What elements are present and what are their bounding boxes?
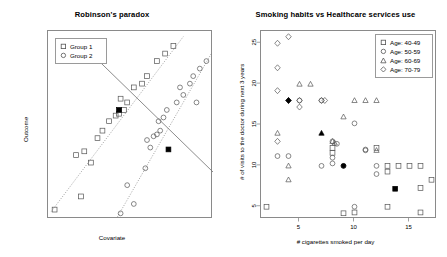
data-point — [125, 100, 130, 105]
data-point — [113, 113, 118, 118]
data-point — [178, 85, 183, 90]
data-point — [171, 44, 176, 49]
data-point — [125, 183, 130, 188]
data-point — [188, 81, 193, 86]
panel-smoking-healthcare: Smoking habits vs Healthcare services us… — [224, 0, 447, 257]
data-point — [148, 145, 153, 150]
data-point — [197, 66, 202, 71]
legend-label-age-40-49: Age: 40-49 — [390, 39, 420, 46]
data-point — [145, 138, 150, 143]
data-point — [158, 128, 163, 133]
legend-label-group-1: Group 1 — [70, 43, 92, 50]
legend-groups: Group 1 Group 2 — [55, 38, 107, 64]
data-point — [52, 207, 57, 212]
data-point — [74, 153, 79, 158]
data-point — [143, 166, 148, 171]
data-point — [79, 194, 84, 199]
y-tick-label: 15 — [251, 120, 257, 127]
data-point — [145, 74, 150, 79]
page-title: Robinson's paradox — [0, 10, 224, 19]
y-tick-label: 25 — [251, 38, 257, 45]
y-axis-label-right: # of visits to the doctor during next 3 … — [238, 64, 245, 180]
legend-label-group-2: Group 2 — [70, 52, 92, 59]
figure-canvas: Robinson's paradox Group 1 Group 2 Covar… — [0, 0, 447, 257]
highlighted-data-point — [117, 108, 122, 113]
legend-label-age-50-59: Age: 50-59 — [390, 48, 420, 55]
data-point — [95, 136, 100, 141]
legend-item-group-1[interactable]: Group 1 — [60, 42, 102, 51]
data-point — [118, 96, 123, 101]
diamond-marker-icon — [380, 66, 387, 73]
triangle-marker-icon — [380, 57, 387, 64]
legend-label-age-70-79: Age: 70-79 — [390, 66, 420, 73]
circle-marker-icon — [60, 52, 67, 59]
trend-line — [117, 54, 211, 218]
data-point — [191, 74, 196, 79]
legend-item-age-40-49[interactable]: Age: 40-49 — [380, 38, 428, 47]
x-tick-label: 15 — [405, 224, 412, 230]
y-axis-label-left: Outcome — [22, 117, 29, 142]
panel-robinsons-paradox: Robinson's paradox Group 1 Group 2 Covar… — [0, 0, 224, 257]
data-point — [107, 119, 112, 124]
square-marker-icon — [60, 43, 67, 50]
x-tick-label: 10 — [350, 224, 357, 230]
data-point — [174, 100, 179, 105]
legend-item-age-70-79[interactable]: Age: 70-79 — [380, 65, 428, 74]
data-point — [82, 149, 87, 154]
data-point — [164, 108, 169, 113]
x-axis-label-right: # cigarettes smoked per day — [224, 238, 447, 245]
data-point — [194, 100, 199, 105]
data-point — [181, 93, 186, 98]
legend-item-age-60-69[interactable]: Age: 60-69 — [380, 56, 428, 65]
data-point — [131, 85, 136, 90]
y-tick-label: 10 — [251, 161, 257, 168]
legend-label-age-60-69: Age: 60-69 — [390, 57, 420, 64]
x-axis-label-left: Covariate — [0, 234, 224, 241]
square-marker-icon — [380, 39, 387, 46]
data-point — [100, 128, 105, 133]
legend-age-groups: Age: 40-49 Age: 50-59 Age: 60-69 Age: 70… — [375, 34, 433, 78]
highlighted-data-point — [166, 147, 171, 152]
data-point — [161, 115, 166, 120]
y-tick-label: 5 — [251, 203, 257, 207]
legend-item-age-50-59[interactable]: Age: 50-59 — [380, 47, 428, 56]
circle-marker-icon — [380, 48, 387, 55]
data-point — [140, 81, 145, 86]
y-tick-label: 20 — [251, 79, 257, 86]
x-tick-label: 5 — [297, 224, 301, 230]
data-point — [122, 108, 127, 113]
data-point — [204, 59, 209, 64]
data-point — [163, 51, 168, 56]
data-point — [131, 202, 136, 207]
data-point — [155, 59, 160, 64]
legend-item-group-2[interactable]: Group 2 — [60, 51, 102, 60]
data-point — [118, 211, 123, 216]
